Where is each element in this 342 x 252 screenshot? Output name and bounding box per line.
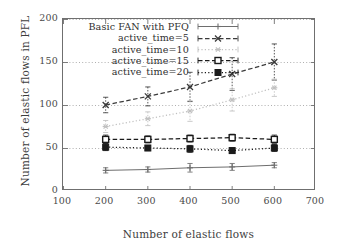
- y-axis-title: Number of elastic flows in PFL: [19, 6, 31, 196]
- series-0: [103, 162, 278, 173]
- x-tick-label: 600: [253, 196, 293, 206]
- chart-figure: 050100150200 Basic FAN with PFQactive_ti…: [0, 0, 342, 252]
- legend-label: active_time=5: [118, 33, 189, 43]
- legend-item[interactable]: active_time=5: [70, 32, 240, 43]
- x-tick-label: 200: [84, 196, 124, 206]
- x-tick-label: 100: [42, 196, 82, 206]
- legend-key-star-icon: [196, 44, 240, 55]
- series-4: [103, 144, 278, 154]
- legend-key-filled-square-icon: [196, 67, 240, 78]
- legend-label: active_time=20: [112, 67, 189, 77]
- legend-key-plus-icon: [196, 21, 240, 32]
- legend-item[interactable]: active_time=10: [70, 44, 240, 55]
- x-tick-label: 500: [211, 196, 251, 206]
- chart-legend: Basic FAN with PFQactive_time=5active_ti…: [70, 21, 240, 78]
- legend-item[interactable]: active_time=15: [70, 55, 240, 66]
- x-axis-title: Number of elastic flows: [62, 228, 315, 240]
- x-tick-label: 300: [126, 196, 166, 206]
- legend-label: active_time=10: [112, 45, 189, 55]
- x-axis-tick-labels: 100200300400500600700: [0, 196, 342, 210]
- legend-key-open-square-icon: [196, 55, 240, 66]
- legend-label: Basic FAN with PFQ: [88, 22, 189, 32]
- legend-key-cross-icon: [196, 33, 240, 44]
- legend-label: active_time=15: [112, 56, 189, 66]
- x-tick-label: 700: [295, 196, 335, 206]
- series-3: [103, 134, 278, 143]
- legend-item[interactable]: active_time=20: [70, 67, 240, 78]
- legend-item[interactable]: Basic FAN with PFQ: [70, 21, 240, 32]
- x-tick-label: 400: [169, 196, 209, 206]
